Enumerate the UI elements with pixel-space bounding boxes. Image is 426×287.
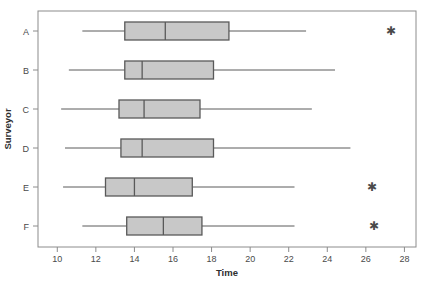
x-tick-label: 26: [361, 254, 371, 264]
box-iqr: [106, 178, 193, 196]
plot-frame: [38, 11, 416, 247]
y-tick-label-d: D: [23, 144, 30, 154]
outlier-marker: ✱: [386, 24, 396, 38]
x-tick-label: 24: [322, 254, 332, 264]
box-iqr: [119, 100, 200, 118]
y-tick-label-f: F: [24, 222, 30, 232]
x-axis-title: Time: [216, 267, 238, 278]
plot-canvas: 10121416182022242628TimeABCDEFSurveyor✱✱…: [0, 0, 426, 287]
x-tick-label: 10: [52, 254, 62, 264]
y-axis: ABCDEF: [23, 27, 39, 232]
y-tick-label-b: B: [23, 66, 29, 76]
outlier-marker: ✱: [369, 219, 379, 233]
x-tick-label: 16: [168, 254, 178, 264]
x-tick-label: 18: [207, 254, 217, 264]
x-tick-label: 12: [91, 254, 101, 264]
x-tick-label: 28: [399, 254, 409, 264]
box-iqr: [125, 61, 214, 79]
y-tick-label-a: A: [23, 27, 29, 37]
y-tick-label-c: C: [23, 105, 30, 115]
boxplot-chart: 10121416182022242628TimeABCDEFSurveyor✱✱…: [0, 0, 426, 287]
outlier-marker: ✱: [367, 180, 377, 194]
x-tick-label: 14: [129, 254, 139, 264]
x-tick-label: 22: [284, 254, 294, 264]
y-tick-label-e: E: [23, 183, 29, 193]
box-iqr: [127, 217, 202, 235]
box-iqr: [121, 139, 214, 157]
box-iqr: [125, 22, 229, 40]
x-tick-label: 20: [245, 254, 255, 264]
y-axis-title: Surveyor: [2, 108, 13, 149]
chart-title: [0, 0, 426, 5]
x-axis: 10121416182022242628: [52, 247, 409, 264]
